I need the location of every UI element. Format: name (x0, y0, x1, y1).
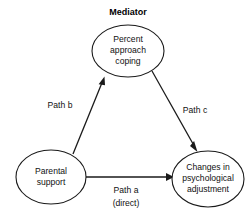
edge-path-a (86, 173, 174, 181)
diagram-title: Mediator (109, 7, 147, 17)
node-mediator-line-2: approach (110, 45, 146, 55)
edge-label-path-a: Path a (114, 185, 139, 195)
path-b-arrowhead (99, 77, 105, 86)
node-outcome-line-1: Changes in (186, 162, 230, 172)
node-mediator-line-1: Percent (113, 34, 143, 44)
node-outcome: Changes in psychological adjustment (172, 151, 244, 207)
path-b-line (73, 82, 103, 155)
diagram-canvas: Percent approach coping Parental support… (0, 0, 248, 217)
node-parental-support-line-1: Parental (35, 166, 67, 176)
node-mediator: Percent approach coping (92, 25, 164, 77)
edge-path-b (73, 77, 105, 155)
edge-sublabel-path-a-direct: (direct) (113, 198, 140, 208)
node-mediator-line-3: coping (115, 56, 141, 66)
edge-label-path-c: Path c (183, 105, 208, 115)
node-outcome-line-2: psychological (182, 173, 234, 183)
edge-label-path-b: Path b (48, 100, 73, 110)
node-parental-support-line-2: support (37, 177, 66, 187)
node-outcome-line-3: adjustment (187, 184, 230, 194)
mediation-diagram: Percent approach coping Parental support… (0, 0, 248, 217)
node-parental-support: Parental support (16, 150, 86, 204)
path-c-arrowhead (190, 141, 198, 152)
